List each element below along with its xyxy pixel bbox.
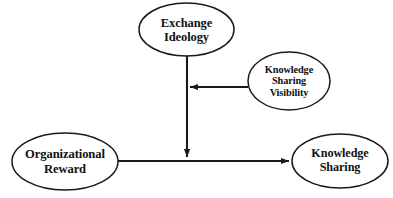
node-ellipse-knowledge-sharing-visibility [248,52,330,110]
node-ellipse-knowledge-sharing [292,134,388,188]
node-ellipse-organizational-reward [12,133,118,190]
node-ellipse-exchange-ideology [139,3,234,56]
diagram-vector-layer [0,0,393,198]
research-model-diagram: Exchange Ideology Knowledge Sharing Visi… [0,0,393,198]
